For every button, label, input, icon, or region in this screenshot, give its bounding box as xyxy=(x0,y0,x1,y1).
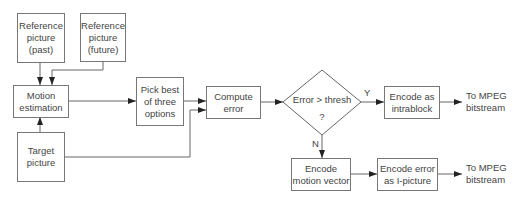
node-text: Reference xyxy=(81,20,125,32)
output-text: To MPEG xyxy=(466,162,507,174)
node-encode-motion-vector: Encode motion vector xyxy=(291,158,351,191)
output-mpeg-top: To MPEG bitstream xyxy=(466,90,507,114)
node-encode-error: Encode error as I-picture xyxy=(377,158,438,191)
node-text: motion vector xyxy=(292,175,349,187)
node-text: options xyxy=(141,108,180,120)
node-text: Reference xyxy=(19,20,63,32)
node-text: Encode as xyxy=(390,91,435,103)
node-text: (future) xyxy=(81,44,125,56)
edge-label-yes: Y xyxy=(364,87,370,99)
node-text: picture xyxy=(27,157,56,169)
output-text: bitstream xyxy=(466,102,507,114)
node-text: Encode xyxy=(292,163,349,175)
node-compute-error: Compute error xyxy=(206,86,261,119)
node-target-picture: Target picture xyxy=(17,132,65,182)
node-text: Motion xyxy=(19,90,62,102)
node-text: Pick best xyxy=(141,84,180,96)
edge-label-no: N xyxy=(312,138,319,150)
edge-target-compute xyxy=(64,110,206,157)
node-text: Compute xyxy=(214,91,253,103)
node-text: of three xyxy=(141,96,180,108)
decision-text: Error > thresh xyxy=(283,94,361,106)
node-text: estimation xyxy=(19,102,62,114)
output-mpeg-bottom: To MPEG bitstream xyxy=(466,162,507,186)
output-text: To MPEG xyxy=(466,90,507,102)
node-text: intrablock xyxy=(390,103,435,115)
decision-question: ? xyxy=(283,111,361,123)
node-text: (past) xyxy=(19,44,63,56)
node-reference-past: Reference picture (past) xyxy=(17,13,65,63)
node-text: as I-picture xyxy=(380,175,435,187)
node-pick-best: Pick best of three options xyxy=(136,77,184,126)
node-encode-intrablock: Encode as intrablock xyxy=(384,86,440,119)
output-text: bitstream xyxy=(466,174,507,186)
node-motion-estimation: Motion estimation xyxy=(13,85,69,118)
node-text: picture xyxy=(19,32,63,44)
node-text: Target xyxy=(27,145,56,157)
node-text: picture xyxy=(81,32,125,44)
node-text: error xyxy=(214,103,253,115)
node-reference-future: Reference picture (future) xyxy=(80,13,126,62)
node-text: Encode error xyxy=(380,163,435,175)
edge-reffuture-motion xyxy=(52,61,103,85)
